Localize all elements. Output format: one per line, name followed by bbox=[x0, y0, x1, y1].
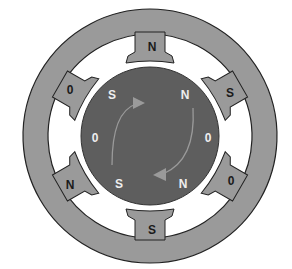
rotor-left-label: 0 bbox=[92, 132, 99, 144]
rotor-upper-right-label: N bbox=[181, 89, 190, 101]
motor-drawing bbox=[0, 0, 292, 269]
rotor-lower-left-label: S bbox=[115, 178, 123, 190]
rotor bbox=[78, 64, 222, 208]
stator-pole-bottom-label: S bbox=[148, 224, 156, 236]
stator-pole-lower-left-label: N bbox=[66, 179, 75, 191]
stator-pole-upper-left-label: 0 bbox=[67, 84, 74, 96]
stator-pole-upper-right-label: S bbox=[226, 87, 234, 99]
rotor-lower-right-label: N bbox=[179, 178, 188, 190]
stepper-motor-diagram: N S 0 S N 0 S N 0 N S 0 bbox=[0, 0, 292, 269]
stator-pole-top-label: N bbox=[148, 41, 157, 53]
stator-pole-lower-right-label: 0 bbox=[228, 175, 235, 187]
rotor-upper-left-label: S bbox=[108, 89, 116, 101]
rotor-right-label: 0 bbox=[205, 132, 212, 144]
